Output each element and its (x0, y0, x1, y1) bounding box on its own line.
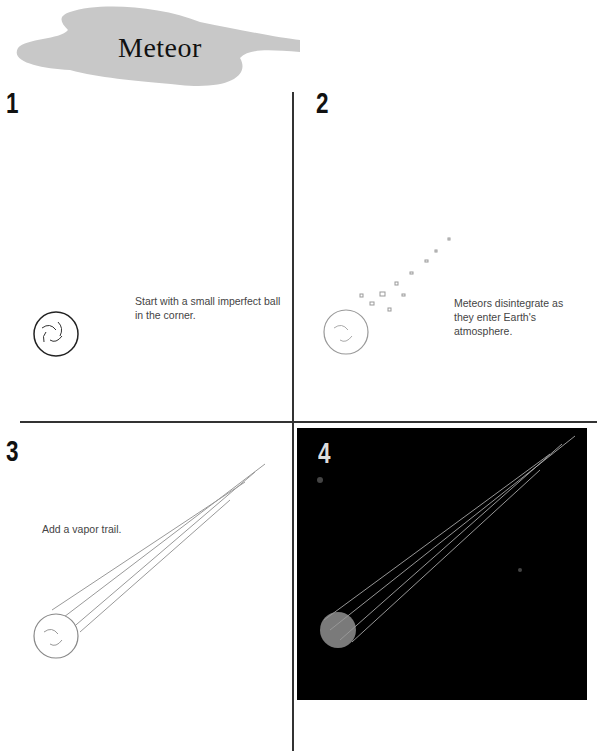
page-title: Meteor (118, 32, 202, 64)
step-2-caption: Meteors disintegrate as they enter Earth… (454, 296, 574, 338)
disintegrating-meteor-sketch (320, 232, 470, 362)
step-3-number: 3 (6, 434, 19, 468)
step-3-caption: Add a vapor trail. (42, 522, 162, 536)
step-1-caption: Start with a small imperfect ball in the… (135, 294, 285, 322)
meteor-vapor-trail-sketch (30, 460, 270, 660)
glowing-meteor-illustration (300, 430, 585, 698)
step-2-number: 2 (316, 86, 329, 120)
step-1-number: 1 (6, 86, 19, 120)
horizontal-divider (20, 421, 597, 423)
meteor-ball-sketch (30, 308, 82, 360)
